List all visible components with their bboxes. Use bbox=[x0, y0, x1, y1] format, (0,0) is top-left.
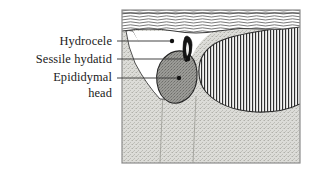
leader-dot-sessile-hydatid bbox=[186, 57, 190, 61]
leader-dot-hydrocele bbox=[170, 39, 174, 43]
anatomical-figure: Hydrocele Sessile hydatid Epididymal hea… bbox=[0, 0, 311, 175]
leader-dot-epididymal-head bbox=[177, 76, 181, 80]
figure-canvas: Hydrocele Sessile hydatid Epididymal hea… bbox=[0, 0, 311, 175]
label-epididymal-head: Epididymal bbox=[53, 70, 112, 84]
label-hydrocele: Hydrocele bbox=[59, 34, 112, 48]
label-epididymal-head-line2: head bbox=[88, 86, 112, 100]
illustration-body bbox=[122, 10, 310, 163]
label-sessile-hydatid: Sessile hydatid bbox=[36, 52, 113, 66]
